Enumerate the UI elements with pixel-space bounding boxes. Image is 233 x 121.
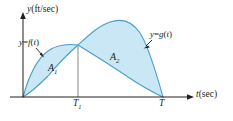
x-tick-label-t1-sub: 1 xyxy=(78,103,81,110)
y-axis-label: y(ft/sec) xyxy=(27,5,58,15)
region-label-a1-sub: 1 xyxy=(54,68,57,75)
region-label-a2: A2 xyxy=(110,52,120,65)
velocity-area-figure: y(ft/sec) t(sec) y=f(t) y=g(t) A1 A2 T1 … xyxy=(0,0,233,121)
curve-label-g-arg: (t) xyxy=(164,29,173,39)
curve-label-f-arg: (t) xyxy=(31,37,40,47)
y-axis-label-units: (ft/sec) xyxy=(31,4,58,14)
y-axis-arrow-icon xyxy=(20,12,26,19)
leader-line-g xyxy=(146,40,152,46)
x-axis-arrow-icon xyxy=(187,94,194,100)
curve-label-g: y=g(t) xyxy=(150,30,172,39)
region-label-a1: A1 xyxy=(48,63,58,76)
x-tick-label-t-var: T xyxy=(159,98,164,108)
x-tick-label-t1: T1 xyxy=(73,99,82,110)
curve-label-f: y=f(t) xyxy=(19,38,39,47)
x-axis-label: t(sec) xyxy=(196,90,217,100)
x-axis-label-units: (sec) xyxy=(199,89,217,99)
region-label-a2-sub: 2 xyxy=(116,57,119,64)
x-tick-label-t: T xyxy=(159,99,164,109)
